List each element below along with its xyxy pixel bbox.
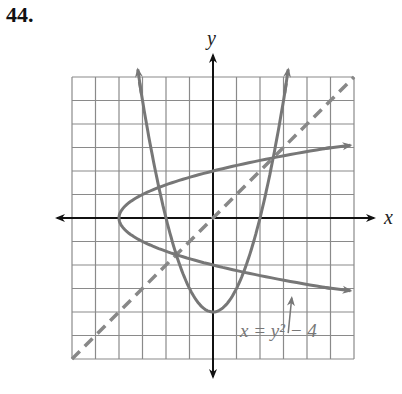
equation-label: x = y² − 4 <box>239 320 317 341</box>
chart: xyx = y² − 4 <box>0 0 402 394</box>
x-axis-label: x <box>383 206 393 228</box>
y-axis-label: y <box>205 27 216 50</box>
